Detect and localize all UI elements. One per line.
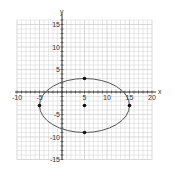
ellipse-graph: xy-10-5510152015105-5-10-15 xyxy=(0,0,175,176)
data-point xyxy=(128,104,132,108)
y-tick-label: -5 xyxy=(54,111,60,118)
y-tick-label: 10 xyxy=(52,44,60,51)
data-point xyxy=(38,104,42,108)
y-tick-label: -10 xyxy=(50,134,60,141)
y-tick-label: 5 xyxy=(56,66,60,73)
x-tick-label: 20 xyxy=(148,94,156,101)
x-axis-label: x xyxy=(158,88,162,95)
x-tick-label: 15 xyxy=(126,94,134,101)
data-point xyxy=(83,131,87,135)
y-tick-label: 15 xyxy=(52,21,60,28)
y-tick-label: -15 xyxy=(50,156,60,163)
data-point xyxy=(83,77,87,81)
y-axis-label: y xyxy=(60,8,64,16)
x-tick-label: 10 xyxy=(103,94,111,101)
data-point xyxy=(83,104,87,108)
x-tick-label: 5 xyxy=(83,94,87,101)
x-tick-label: -10 xyxy=(12,94,22,101)
